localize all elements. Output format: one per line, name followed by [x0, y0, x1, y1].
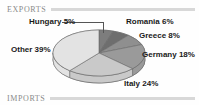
slice-label-italy: Italy 24% — [124, 79, 158, 88]
pie-svg — [51, 25, 147, 87]
slice-label-hungary: Hungary 5% — [29, 17, 75, 26]
slice-label-greece: Greece 8% — [139, 31, 180, 40]
exports-pie-chart-page: EXPORTS Hungary 5% Romania 6% Greece 8% … — [0, 0, 199, 105]
slice-label-germany: Germany 18% — [142, 50, 195, 59]
hungary-leader-line-vertical — [103, 22, 104, 33]
slice-label-other: Other 39% — [11, 45, 51, 54]
chart-area: Hungary 5% Romania 6% Greece 8% Germany … — [0, 13, 199, 92]
section-label-imports: IMPORTS — [0, 94, 45, 103]
pie-slices — [53, 30, 145, 83]
section-header-imports: IMPORTS — [0, 92, 199, 104]
section-rule-exports — [51, 8, 195, 11]
slice-label-romania: Romania 6% — [126, 17, 174, 26]
section-rule-imports — [50, 97, 195, 100]
pie-chart-3d — [51, 25, 147, 87]
pie-top-layer — [53, 30, 145, 83]
